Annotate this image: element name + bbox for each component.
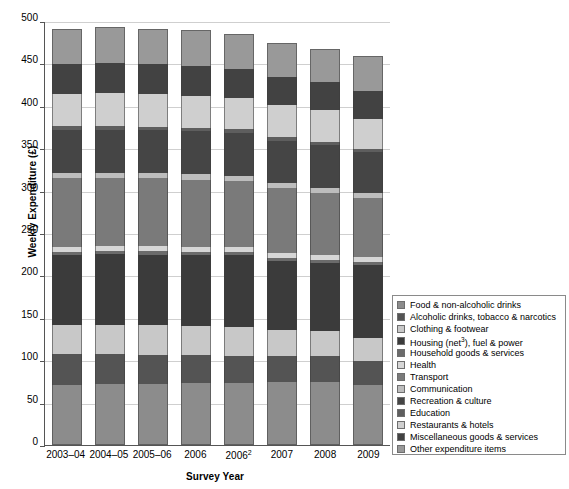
bar-segment — [353, 119, 383, 150]
bar-segment — [52, 385, 82, 445]
legend-item[interactable]: Food & non-alcoholic drinks — [397, 299, 562, 311]
legend-item[interactable]: Clothing & footwear — [397, 323, 562, 335]
legend-item[interactable]: Recreation & culture — [397, 395, 562, 407]
legend-item-label: Household goods & services — [410, 349, 524, 358]
y-axis-tick-label: 400 — [21, 102, 38, 103]
plot-area: 050100150200250300350400450500 — [44, 22, 390, 446]
bar-segment — [267, 141, 297, 183]
x-axis-title: Survey Year — [40, 471, 390, 482]
y-axis-tick-label: 150 — [21, 314, 38, 315]
bar-segment — [181, 96, 211, 128]
legend-item[interactable]: Other expenditure items — [397, 443, 562, 455]
legend-item-label: Other expenditure items — [410, 445, 506, 454]
bar-segment — [181, 66, 211, 96]
bar-segment — [95, 63, 125, 93]
legend-item-label: Housing (net3), fuel & power — [410, 335, 523, 348]
legend-item[interactable]: Housing (net3), fuel & power — [397, 335, 562, 347]
bar-segment — [95, 27, 125, 63]
bar-segment — [224, 383, 254, 445]
bar-segment — [267, 43, 297, 77]
stacked-bar — [138, 29, 168, 445]
stacked-bar — [353, 56, 383, 445]
legend-item[interactable]: Education — [397, 407, 562, 419]
bar-segment — [267, 356, 297, 382]
bar-column — [353, 22, 383, 445]
bar-segment — [52, 64, 82, 94]
legend-item-label: Transport — [410, 373, 448, 382]
bar-segment — [267, 77, 297, 105]
bar-segment — [52, 325, 82, 355]
legend-item-label: Restaurants & hotels — [410, 421, 494, 430]
bar-column — [181, 22, 211, 445]
bar-group — [45, 22, 390, 445]
legend-swatch — [397, 325, 405, 333]
bar-segment — [95, 325, 125, 355]
x-axis-tick-label: 2004–05 — [87, 449, 130, 465]
x-axis-tick-label: 2008 — [304, 449, 347, 465]
bar-segment — [310, 193, 340, 255]
y-axis-tick-label: 250 — [21, 229, 38, 230]
bar-column — [267, 22, 297, 445]
bar-segment — [138, 325, 168, 354]
bar-segment — [181, 180, 211, 247]
bar-segment — [353, 361, 383, 385]
legend-item[interactable]: Alcoholic drinks, tobacco & narcotics — [397, 311, 562, 323]
bar-segment — [138, 64, 168, 94]
stacked-bar — [52, 29, 82, 445]
y-axis-tick-label: 200 — [21, 271, 38, 272]
bar-segment — [95, 93, 125, 126]
bar-segment — [224, 98, 254, 129]
y-axis-tick-label: 500 — [21, 17, 38, 18]
bar-segment — [138, 178, 168, 246]
legend-item[interactable]: Household goods & services — [397, 347, 562, 359]
bar-segment — [52, 130, 82, 173]
bar-segment — [52, 255, 82, 325]
legend-swatch — [397, 385, 405, 393]
legend-item[interactable]: Communication — [397, 383, 562, 395]
bar-segment — [181, 255, 211, 326]
legend-item[interactable]: Transport — [397, 371, 562, 383]
bar-segment — [267, 382, 297, 445]
legend-swatch — [397, 373, 405, 381]
stacked-bar — [267, 43, 297, 445]
legend-item[interactable]: Restaurants & hotels — [397, 419, 562, 431]
bar-segment — [267, 188, 297, 252]
legend: Food & non-alcoholic drinksAlcoholic dri… — [392, 295, 566, 455]
bar-segment — [181, 131, 211, 174]
bar-segment — [224, 255, 254, 327]
bar-column — [310, 22, 340, 445]
legend-swatch — [397, 361, 405, 369]
bar-segment — [224, 34, 254, 69]
bar-segment — [52, 354, 82, 385]
bar-segment — [52, 94, 82, 126]
bar-segment — [224, 327, 254, 355]
stacked-bar — [310, 49, 340, 445]
bar-column — [224, 22, 254, 445]
x-axis-tick-label: 2006 — [174, 449, 217, 465]
bar-segment — [95, 178, 125, 246]
y-axis-tick-label: 0 — [32, 441, 38, 442]
bar-column — [52, 22, 82, 445]
legend-item-label: Recreation & culture — [410, 397, 492, 406]
stacked-bar-chart: Weekly Expenditure (£) 05010015020025030… — [0, 0, 569, 489]
legend-swatch — [397, 337, 405, 345]
bar-segment — [267, 261, 297, 330]
bar-segment — [52, 178, 82, 247]
bar-segment — [353, 198, 383, 257]
legend-swatch — [397, 445, 405, 453]
x-axis-tick-labels: 2003–042004–052005–062006200622007200820… — [44, 449, 390, 465]
bar-segment — [353, 265, 383, 338]
x-axis-tick-label: 2007 — [260, 449, 303, 465]
bar-segment — [353, 385, 383, 445]
bar-segment — [95, 384, 125, 445]
x-axis-tick-label: 2005–06 — [131, 449, 174, 465]
x-axis-tick-label: 20062 — [217, 449, 260, 465]
bar-segment — [353, 91, 383, 118]
stacked-bar — [224, 34, 254, 445]
bar-segment — [52, 29, 82, 64]
bar-segment — [310, 356, 340, 381]
legend-swatch — [397, 397, 405, 405]
legend-item[interactable]: Health — [397, 359, 562, 371]
legend-swatch — [397, 421, 405, 429]
legend-item[interactable]: Miscellaneous goods & services — [397, 431, 562, 443]
